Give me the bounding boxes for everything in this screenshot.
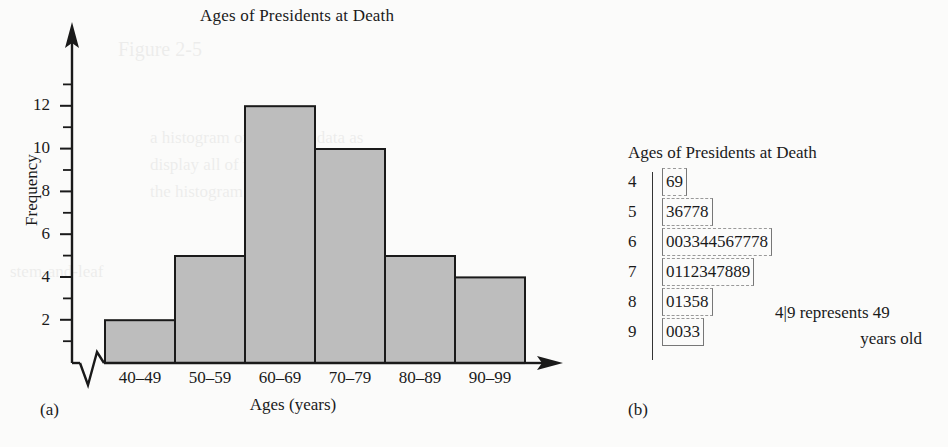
- stemplot-panel: Ages of Presidents at Death 4 69 5 36778…: [600, 0, 948, 447]
- leaf-values: 36778: [662, 198, 713, 226]
- leaf-values: 0112347889: [662, 258, 754, 286]
- bar-80-89: [385, 256, 455, 363]
- legend-line-2: years old: [775, 326, 948, 352]
- histogram-bars: [105, 106, 525, 363]
- bar-50-59: [175, 256, 245, 363]
- leaf-values: 01358: [662, 288, 713, 316]
- stem-digit: 7: [628, 258, 648, 286]
- histogram-panel: Ages of Presidents at Death Frequency 12…: [0, 0, 570, 447]
- stem-digit: 8: [628, 288, 648, 316]
- x-axis-label: Ages (years): [213, 395, 373, 415]
- panel-a-label: (a): [40, 400, 59, 420]
- stemplot-row: 7 0112347889: [628, 258, 772, 288]
- stemplot-rows: 4 69 5 36778 6 003344567778 7 0112347889…: [628, 168, 772, 348]
- stemplot-row: 8 01358: [628, 288, 772, 318]
- bar-60-69: [245, 106, 315, 363]
- stem-digit: 9: [628, 318, 648, 346]
- leaf-values: 69: [662, 168, 687, 196]
- legend-line-1: 4|9 represents 49: [775, 300, 948, 326]
- stemplot-title: Ages of Presidents at Death: [628, 143, 817, 163]
- stemplot-legend: 4|9 represents 49 years old: [775, 300, 948, 352]
- stemplot-row: 4 69: [628, 168, 772, 198]
- bar-40-49: [105, 320, 175, 363]
- stemplot-row: 6 003344567778: [628, 228, 772, 258]
- stem-digit: 4: [628, 168, 648, 196]
- panel-b-label: (b): [628, 400, 648, 420]
- leaf-values: 0033: [662, 318, 704, 346]
- x-tick-label-90-99: 90–99: [448, 368, 532, 388]
- stem-digit: 5: [628, 198, 648, 226]
- stemplot-row: 5 36778: [628, 198, 772, 228]
- leaf-values: 003344567778: [662, 228, 772, 256]
- y-axis-ticks: [60, 84, 72, 341]
- bar-70-79: [315, 149, 385, 363]
- figure-page: Figure 2-5 a histogram of the same data …: [0, 0, 948, 447]
- stem-digit: 6: [628, 228, 648, 256]
- stemplot-row: 9 0033: [628, 318, 772, 348]
- bar-90-99: [455, 277, 525, 363]
